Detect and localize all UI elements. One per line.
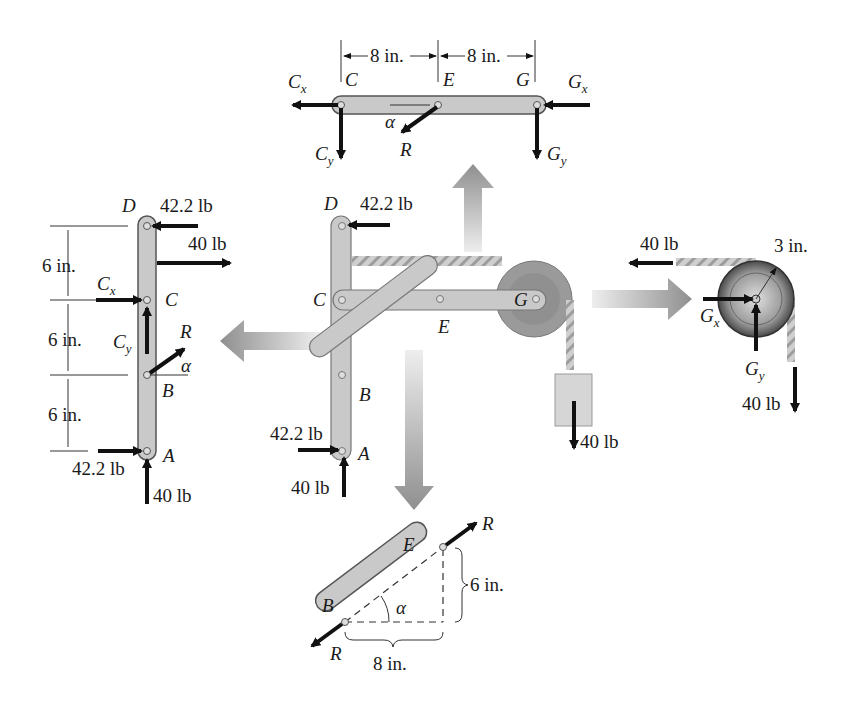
label-cx: Cx: [288, 71, 307, 96]
label-a-vertical: 40 lb: [153, 485, 192, 506]
label-a-horizontal: 42.2 lb: [270, 423, 323, 444]
member-ceg-fbd: 8 in. 8 in. C E G Cx Cy Gx Gy α R: [288, 40, 590, 168]
label-b: B: [162, 380, 174, 401]
rope-vertical: [566, 300, 574, 370]
dim-eg: 8 in.: [467, 45, 501, 66]
force-r-top-arrow: [446, 523, 476, 545]
label-e: E: [437, 316, 450, 337]
pulley-fbd: 3 in. 40 lb Gx Gy 40 lb: [630, 233, 808, 414]
label-a-horizontal: 42.2 lb: [72, 458, 125, 479]
label-b: B: [359, 384, 371, 405]
pin-g: [534, 102, 541, 109]
label-c: C: [313, 289, 326, 310]
label-c: C: [165, 289, 178, 310]
label-radius: 3 in.: [774, 235, 808, 256]
label-cy: Cy: [315, 143, 334, 168]
dim-horizontal: 8 in.: [373, 653, 407, 674]
label-a: A: [356, 443, 370, 464]
label-d: D: [323, 193, 338, 214]
label-rope-left: 40 lb: [640, 233, 679, 254]
pin-c: [338, 102, 345, 109]
assembly: 40 lb D C E G B A 42.2 lb 42.2 lb 40 lb: [270, 193, 619, 498]
label-r: R: [179, 321, 192, 342]
big-arrow-left: [220, 320, 320, 362]
label-cy: Cy: [113, 331, 132, 356]
label-rope-force: 40 lb: [188, 233, 227, 254]
label-r-top: R: [481, 513, 494, 534]
label-b: B: [322, 595, 334, 616]
big-arrow-down: [394, 350, 434, 510]
dim-vertical: 6 in.: [470, 574, 504, 595]
label-alpha: α: [181, 355, 192, 376]
label-g: G: [516, 69, 530, 90]
diagram-svg: 8 in. 8 in. C E G Cx Cy Gx Gy α R: [0, 0, 849, 712]
label-g: G: [514, 289, 528, 310]
big-arrow-right: [592, 278, 692, 320]
label-r-bottom: R: [329, 643, 342, 664]
dim-cb: 6 in.: [48, 329, 82, 350]
label-weight: 40 lb: [580, 431, 619, 452]
dim-ce: 8 in.: [370, 45, 404, 66]
label-gx: Gx: [700, 305, 720, 330]
label-e: E: [442, 69, 455, 90]
label-d-force: 42.2 lb: [160, 195, 213, 216]
diagram-canvas: 8 in. 8 in. C E G Cx Cy Gx Gy α R: [0, 0, 849, 712]
label-a-vertical: 40 lb: [291, 477, 330, 498]
label-alpha: α: [396, 597, 407, 618]
label-alpha: α: [385, 111, 396, 132]
label-gy: Gy: [745, 358, 765, 383]
dim-ba: 6 in.: [48, 404, 82, 425]
label-c: C: [345, 69, 358, 90]
label-rope-down: 40 lb: [742, 393, 781, 414]
label-a: A: [161, 445, 175, 466]
label-e: E: [402, 534, 415, 555]
label-r: R: [399, 139, 412, 160]
explode-arrows: [220, 164, 692, 510]
label-gy: Gy: [547, 143, 567, 168]
dim-dc: 6 in.: [42, 255, 76, 276]
member-abcd-fbd: 6 in. 6 in. 6 in. D C B A 42.2 lb 40 lb …: [42, 195, 230, 506]
big-arrow-up: [452, 164, 494, 252]
label-d: D: [121, 195, 136, 216]
member-be-fbd: α R R E B 6 in. 8 in.: [312, 513, 504, 674]
label-d-force: 42.2 lb: [360, 193, 413, 214]
label-cx: Cx: [97, 273, 116, 298]
label-gx: Gx: [568, 71, 588, 96]
